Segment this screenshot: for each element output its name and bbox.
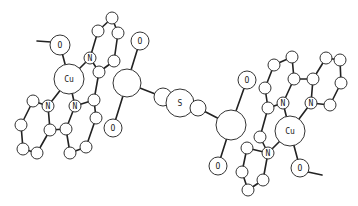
atom-carbon xyxy=(88,94,100,106)
atom-carbon xyxy=(254,131,266,143)
atom-o: O xyxy=(209,157,227,175)
atom-label: N xyxy=(266,149,271,158)
atom-circle xyxy=(216,110,246,140)
atom-circle xyxy=(60,123,72,135)
atom-label: N xyxy=(309,99,314,108)
atom-circle xyxy=(288,73,300,85)
atom-carbon xyxy=(288,73,300,85)
atom-circle xyxy=(113,69,141,97)
atom-carbon xyxy=(320,52,332,64)
atom-label: S xyxy=(178,99,183,108)
atom-layer: OCuNNNOOSOOCuNNNO xyxy=(15,12,347,196)
atom-carbon xyxy=(92,25,104,37)
atom-circle xyxy=(17,143,29,155)
atom-carbon xyxy=(335,77,347,89)
atom-label: Cu xyxy=(285,127,295,136)
atom-o: O xyxy=(104,119,122,137)
methyl-bond-line xyxy=(308,172,322,175)
atom-label: O xyxy=(111,124,116,133)
atom-carbon xyxy=(31,147,43,159)
atom-label: O xyxy=(216,162,221,171)
atom-cu: Cu xyxy=(275,116,305,146)
atom-circle xyxy=(254,131,266,143)
atom-o: O xyxy=(50,35,70,55)
atom-carbon xyxy=(93,66,105,78)
atom-circle xyxy=(44,124,56,136)
atom-n: N xyxy=(277,97,289,109)
atom-carbon xyxy=(307,73,319,85)
atom-carbon xyxy=(15,119,27,131)
atom-o: O xyxy=(131,32,149,50)
atom-o: O xyxy=(238,71,256,89)
atom-circle xyxy=(324,99,336,111)
atom-carbon xyxy=(241,142,253,154)
atom-label: O xyxy=(58,41,63,50)
atom-carbon xyxy=(17,143,29,155)
atom-carbon xyxy=(90,112,102,124)
atom-carbon xyxy=(64,147,76,159)
atom-label: O xyxy=(245,76,250,85)
atom-label: N xyxy=(281,99,286,108)
molecular-structure-diagram: OCuNNNOOSOOCuNNNO xyxy=(0,0,358,206)
atom-label: N xyxy=(88,54,93,63)
atom-circle xyxy=(15,119,27,131)
atom-circle xyxy=(236,166,248,178)
atom-circle xyxy=(27,95,39,107)
atom-carbon xyxy=(259,82,271,94)
atom-circle xyxy=(112,27,124,39)
atom-carbon xyxy=(190,100,206,116)
atom-circle xyxy=(334,54,346,66)
atom-carbon xyxy=(334,54,346,66)
atom-circle xyxy=(64,147,76,159)
atom-carbon xyxy=(44,124,56,136)
atom-circle xyxy=(92,25,104,37)
atom-circle xyxy=(241,142,253,154)
atom-label: N xyxy=(46,102,51,111)
atom-circle xyxy=(88,94,100,106)
atom-label: Cu xyxy=(64,75,74,84)
atom-circle xyxy=(80,141,92,153)
atom-circle xyxy=(106,12,118,24)
atom-n: N xyxy=(42,100,54,112)
atom-circle xyxy=(190,100,206,116)
atom-circle xyxy=(31,147,43,159)
atom-n: N xyxy=(262,147,274,159)
atom-n: N xyxy=(305,97,317,109)
atom-carbon xyxy=(236,166,248,178)
atom-label: N xyxy=(73,102,78,111)
atom-n: N xyxy=(84,52,96,64)
atom-carbon xyxy=(242,184,254,196)
atom-circle xyxy=(257,174,269,186)
atom-circle xyxy=(242,184,254,196)
atom-circle xyxy=(108,55,120,67)
atom-carbon xyxy=(112,27,124,39)
methyl-bond-line xyxy=(37,41,51,42)
atom-carbon xyxy=(216,110,246,140)
atom-carbon xyxy=(286,51,298,63)
atom-cu: Cu xyxy=(54,64,84,94)
atom-circle xyxy=(90,112,102,124)
atom-carbon xyxy=(108,55,120,67)
atom-circle xyxy=(286,51,298,63)
atom-s: S xyxy=(166,89,194,117)
atom-carbon xyxy=(324,99,336,111)
atom-circle xyxy=(307,73,319,85)
atom-carbon xyxy=(257,174,269,186)
atom-carbon xyxy=(268,59,280,71)
atom-circle xyxy=(93,66,105,78)
atom-label: O xyxy=(298,164,303,173)
atom-carbon xyxy=(113,69,141,97)
atom-circle xyxy=(259,82,271,94)
atom-carbon xyxy=(60,123,72,135)
atom-n: N xyxy=(69,100,81,112)
atom-carbon xyxy=(27,95,39,107)
atom-circle xyxy=(268,59,280,71)
atom-carbon xyxy=(106,12,118,24)
atom-o: O xyxy=(291,159,309,177)
atom-circle xyxy=(320,52,332,64)
atom-carbon xyxy=(80,141,92,153)
atom-carbon xyxy=(262,102,274,114)
atom-label: O xyxy=(138,37,143,46)
atom-circle xyxy=(335,77,347,89)
atom-circle xyxy=(262,102,274,114)
